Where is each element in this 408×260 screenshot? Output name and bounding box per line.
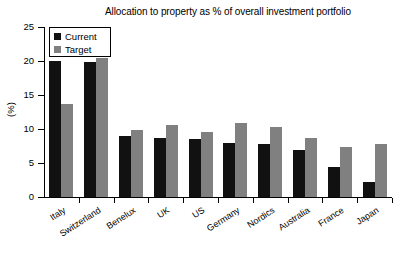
chart-title: Allocation to property as % of overall i… (58, 6, 398, 18)
bar-target-nordics (270, 127, 282, 197)
x-tick-mark (218, 198, 219, 203)
bar-target-uk (166, 125, 178, 197)
legend-item-label: Target (65, 45, 91, 55)
x-tick-mark (357, 198, 358, 203)
x-tick-mark (392, 198, 393, 203)
y-tick-label: 20 (4, 56, 34, 66)
bar-target-france (340, 147, 352, 197)
bar-current-us (189, 139, 201, 197)
y-tick-label: 5 (4, 158, 34, 168)
x-tick-mark (322, 198, 323, 203)
y-tick-label: 15 (4, 90, 34, 100)
y-tick-mark (38, 197, 44, 198)
x-tick-mark (79, 198, 80, 203)
x-tick-mark (114, 198, 115, 203)
x-tick-mark (183, 198, 184, 203)
legend-item-target: Target (54, 43, 110, 56)
bar-target-us (201, 132, 213, 197)
bar-target-benelux (131, 130, 143, 197)
y-tick-label: 10 (4, 124, 34, 134)
legend-item-current: Current (54, 30, 110, 43)
bar-current-japan (363, 182, 375, 197)
bar-current-australia (293, 150, 305, 197)
bar-current-uk (154, 138, 166, 197)
bar-target-japan (375, 144, 387, 197)
bar-current-benelux (119, 136, 131, 197)
bar-current-france (328, 167, 340, 197)
x-tick-mark (288, 198, 289, 203)
bar-target-italy (61, 104, 73, 197)
bar-current-switzerland (84, 62, 96, 197)
bar-target-switzerland (96, 58, 108, 197)
bar-current-nordics (258, 144, 270, 197)
bar-current-italy (49, 61, 61, 197)
gray-square-icon (54, 46, 61, 53)
x-tick-mark (148, 198, 149, 203)
bar-current-germany (223, 143, 235, 197)
bar-target-germany (235, 123, 247, 197)
x-tick-mark (253, 198, 254, 203)
bar-chart: Allocation to property as % of overall i… (0, 0, 408, 260)
chart-legend: Current Target (49, 27, 111, 57)
legend-item-label: Current (65, 32, 97, 42)
y-tick-label: 25 (4, 22, 34, 32)
bar-target-australia (305, 138, 317, 197)
y-tick-label: 0 (4, 192, 34, 202)
black-square-icon (54, 33, 61, 40)
